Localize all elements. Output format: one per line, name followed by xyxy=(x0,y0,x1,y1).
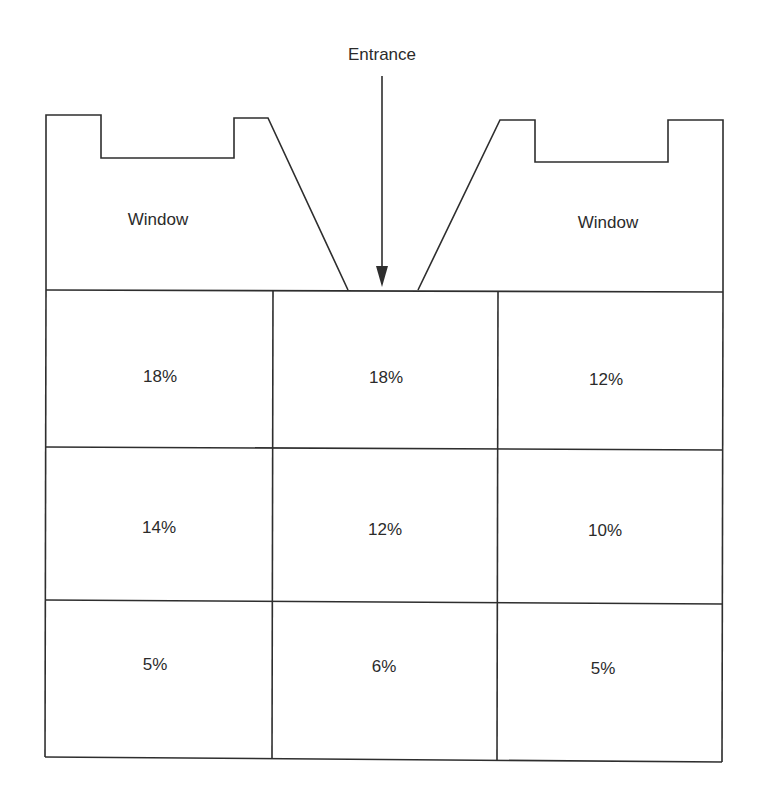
grid-right-edge xyxy=(722,292,723,762)
cell-value: 12% xyxy=(589,370,623,389)
left-window-outline xyxy=(46,115,348,290)
window-left-label: Window xyxy=(128,210,189,229)
grid-top-line xyxy=(46,290,723,292)
grid-bottom-line xyxy=(45,757,722,762)
grid-row-divider-2 xyxy=(46,600,722,604)
cell-value: 5% xyxy=(591,659,616,678)
cell-value: 18% xyxy=(143,367,177,386)
cell-value: 10% xyxy=(588,521,622,540)
grid-row-divider-1 xyxy=(46,447,722,450)
cell-value: 6% xyxy=(372,657,397,676)
entrance-arrow-icon xyxy=(376,266,388,287)
cell-value: 18% xyxy=(369,368,403,387)
floor-plan-diagram: Entrance Window Window 18% 18% 12% 14% 1… xyxy=(0,0,757,802)
entrance-label: Entrance xyxy=(348,45,416,64)
cell-value: 14% xyxy=(142,518,176,537)
window-right-label: Window xyxy=(578,213,639,232)
cell-value: 12% xyxy=(368,520,402,539)
right-window-outline xyxy=(418,120,723,292)
grid-col-divider-2 xyxy=(497,291,498,761)
cell-value: 5% xyxy=(143,655,168,674)
grid-left-edge xyxy=(45,290,46,757)
grid-col-divider-1 xyxy=(272,290,273,759)
